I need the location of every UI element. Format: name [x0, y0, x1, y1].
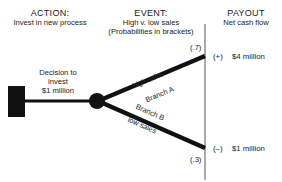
- branch-b-probability: (.3): [190, 155, 201, 164]
- chance-node-circle: [89, 93, 105, 109]
- event-title: EVENT:: [100, 8, 202, 18]
- branch-a-probability: (.7): [190, 43, 201, 52]
- event-header: EVENT: High v. low sales (Probabilities …: [100, 8, 202, 36]
- branch-b-sign: (–): [213, 144, 223, 153]
- decision-tree-diagram: ACTION: Invest in new process EVENT: Hig…: [0, 0, 282, 182]
- decision-label: Decision to invest $1 million: [28, 68, 88, 95]
- branch-a-sign: (+): [213, 52, 223, 61]
- action-header: ACTION: Invest in new process: [6, 8, 94, 27]
- decision-node-square: [8, 86, 25, 117]
- decision-line-1: Decision to: [28, 68, 88, 77]
- action-title: ACTION:: [6, 8, 94, 18]
- decision-line-2: invest: [28, 77, 88, 86]
- branch-b-payout: $1 million: [232, 144, 265, 153]
- event-subtitle-2: (Probabilities in brackets): [100, 27, 202, 36]
- event-subtitle-1: High v. low sales: [100, 18, 202, 27]
- branch-a-payout: $4 million: [232, 52, 265, 61]
- payout-subtitle: Net cash flow: [213, 18, 279, 27]
- payout-header: PAYOUT Net cash flow: [213, 8, 279, 27]
- decision-line-3: $1 million: [28, 86, 88, 95]
- payout-title: PAYOUT: [213, 8, 279, 18]
- action-subtitle: Invest in new process: [6, 18, 94, 27]
